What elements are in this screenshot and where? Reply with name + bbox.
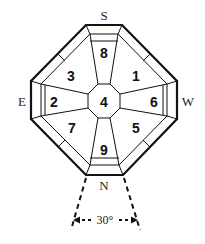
octagon-diagram: S N E W 8 1 6 5 9 7 2 3 4 30° xyxy=(0,0,205,244)
direction-label-top: S xyxy=(100,8,107,23)
sector-label-bottom: 9 xyxy=(100,142,108,158)
direction-label-right: W xyxy=(182,94,195,109)
angle-annotation: 30° xyxy=(97,213,114,227)
direction-label-left: E xyxy=(18,94,26,109)
sector-label-left: 2 xyxy=(50,94,58,110)
sector-label-right: 6 xyxy=(150,94,158,110)
sector-label-bottom-right: 5 xyxy=(132,120,140,136)
center-label: 4 xyxy=(100,94,108,110)
sector-label-bottom-left: 7 xyxy=(68,120,76,136)
sector-label-top-right: 1 xyxy=(132,68,140,84)
direction-label-bottom: N xyxy=(99,178,109,193)
sector-label-top: 8 xyxy=(100,45,108,61)
sector-label-top-left: 3 xyxy=(67,68,75,84)
